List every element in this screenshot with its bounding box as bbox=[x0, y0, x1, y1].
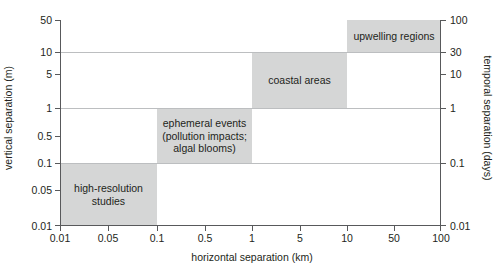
y-tick-right bbox=[441, 20, 446, 21]
y-tick-label-right: 30 bbox=[450, 47, 462, 58]
x-tick bbox=[300, 226, 301, 231]
x-tick-label: 1 bbox=[249, 233, 255, 244]
y-tick-label-right: 10 bbox=[450, 69, 462, 80]
plot-area: high-resolution studies ephemeral events… bbox=[60, 20, 441, 226]
y-tick-label-left: 0.5 bbox=[16, 131, 52, 142]
gridline-y-10 bbox=[60, 52, 441, 53]
y-tick-label-right: 100 bbox=[450, 15, 468, 26]
y-tick-left bbox=[55, 20, 60, 21]
x-tick-label: 0.5 bbox=[198, 233, 213, 244]
x-tick bbox=[347, 226, 348, 231]
x-tick-label: 100 bbox=[432, 233, 450, 244]
x-tick-label: 10 bbox=[341, 233, 353, 244]
y-tick-label-right: 0.1 bbox=[450, 158, 465, 169]
gridline-y-0.1 bbox=[60, 163, 441, 164]
x-tick-label: 0.05 bbox=[98, 233, 118, 244]
y-tick-label-left: 50 bbox=[16, 15, 52, 26]
x-tick bbox=[205, 226, 206, 231]
region-coastal-areas: coastal areas bbox=[252, 52, 347, 109]
y-tick-label-left: 10 bbox=[16, 47, 52, 58]
region-ephemeral-events: ephemeral events (pollution impacts; alg… bbox=[157, 109, 252, 163]
y-tick-label-right: 1 bbox=[450, 103, 456, 114]
y-tick-right bbox=[441, 163, 446, 164]
y-tick-right bbox=[441, 225, 446, 226]
y-tick-label-right: 0.01 bbox=[450, 221, 470, 232]
y-tick-right bbox=[441, 74, 446, 75]
x-tick bbox=[394, 226, 395, 231]
y-tick-label-left: 5 bbox=[16, 69, 52, 80]
y-tick-left bbox=[55, 52, 60, 53]
y-tick-label-left: 0.05 bbox=[16, 185, 52, 196]
region-upwelling-regions: upwelling regions bbox=[347, 20, 441, 52]
y-tick-left bbox=[55, 163, 60, 164]
x-tick-label: 0.1 bbox=[150, 233, 165, 244]
y-axis-title-right: temporal separation (days) bbox=[482, 18, 494, 218]
region-label: upwelling regions bbox=[353, 30, 434, 43]
x-tick bbox=[440, 226, 441, 231]
y-tick-left bbox=[55, 74, 60, 75]
x-axis-title: horizontal separation (km) bbox=[0, 251, 504, 263]
x-tick bbox=[60, 226, 61, 231]
x-tick-label: 0.01 bbox=[50, 233, 70, 244]
y-tick-left bbox=[55, 136, 60, 137]
region-label: ephemeral events (pollution impacts; alg… bbox=[162, 117, 247, 155]
y-tick-left bbox=[55, 108, 60, 109]
y-tick-label-left: 0.01 bbox=[16, 221, 52, 232]
x-tick bbox=[157, 226, 158, 231]
x-tick-label: 50 bbox=[388, 233, 400, 244]
axis-line-right bbox=[440, 20, 441, 226]
axis-line-left bbox=[60, 20, 61, 226]
region-label: coastal areas bbox=[268, 74, 330, 87]
x-tick bbox=[252, 226, 253, 231]
y-tick-right bbox=[441, 52, 446, 53]
region-label: high-resolution studies bbox=[74, 182, 143, 207]
y-tick-left bbox=[55, 190, 60, 191]
x-tick bbox=[108, 226, 109, 231]
y-tick-label-left: 1 bbox=[16, 103, 52, 114]
axis-line-bottom bbox=[60, 225, 441, 226]
y-tick-label-left: 0.1 bbox=[16, 158, 52, 169]
y-axis-title-left: vertical separation (m) bbox=[2, 18, 14, 218]
x-tick-label: 5 bbox=[297, 233, 303, 244]
region-high-resolution-studies: high-resolution studies bbox=[60, 163, 157, 226]
y-tick-right bbox=[441, 108, 446, 109]
gridline-y-1 bbox=[60, 108, 441, 109]
figure-root: 50 10 5 1 0.5 0.1 0.05 0.01 100 30 10 1 … bbox=[0, 0, 504, 271]
